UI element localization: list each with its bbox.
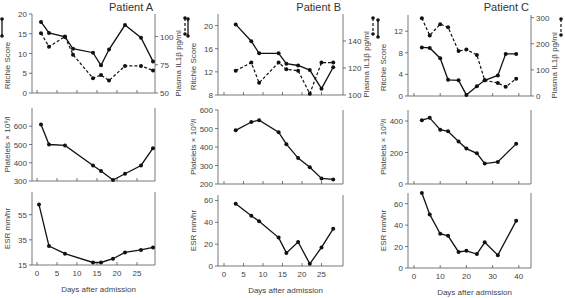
y-tick-label: 400 — [200, 143, 214, 152]
panel-ritchie-il1b: 048120100200300Plasma IL1β pg/mlRitchie … — [376, 14, 563, 101]
series-line — [41, 22, 153, 65]
y-tick-label: 10 — [18, 50, 27, 59]
y-axis-label: ESR mm/hr — [3, 208, 12, 250]
data-point — [296, 69, 300, 73]
data-point — [428, 116, 432, 120]
data-point — [438, 56, 442, 60]
data-point — [331, 65, 335, 69]
data-point — [296, 63, 300, 67]
data-point — [151, 245, 155, 249]
data-point — [331, 227, 335, 231]
data-point — [234, 69, 238, 73]
data-point — [308, 68, 312, 72]
data-point — [99, 169, 103, 173]
data-point — [475, 84, 479, 88]
x-tick-label: 5 — [55, 269, 60, 278]
data-point — [496, 81, 500, 85]
data-point — [428, 33, 432, 37]
data-point — [234, 128, 238, 132]
y-axis-label: ESR mm/hr — [379, 210, 388, 252]
data-point — [39, 31, 43, 35]
data-point — [464, 47, 468, 51]
y-right-tick-label: 50 — [160, 89, 169, 98]
data-point — [496, 160, 500, 164]
x-tick-label: 15 — [93, 269, 102, 278]
data-point — [320, 87, 324, 91]
y-axis-label: Platelets × 10⁹/l — [189, 119, 198, 175]
series-line — [236, 63, 334, 94]
y-tick-label: 400 — [390, 117, 404, 126]
y-tick-label: 4 — [399, 70, 404, 79]
data-point — [284, 62, 288, 66]
y-tick-label: 60 — [394, 200, 403, 209]
data-point — [420, 45, 424, 49]
data-point — [63, 35, 67, 39]
data-point — [308, 165, 312, 169]
y-tick-label: 200 — [200, 180, 214, 189]
x-tick-label: 0 — [412, 272, 417, 281]
y-tick-label: 5 — [23, 69, 28, 78]
data-point — [63, 252, 67, 256]
y-tick-label: 600 — [200, 106, 214, 115]
data-point — [91, 163, 95, 167]
data-point — [91, 260, 95, 264]
data-point — [504, 52, 508, 56]
data-point — [475, 53, 479, 57]
y-tick-label: 15 — [18, 30, 27, 39]
y-right-tick-label: 100 — [348, 91, 362, 100]
data-point — [123, 64, 127, 68]
data-point — [438, 22, 442, 26]
y-tick-label: 20 — [18, 10, 27, 19]
patient-chart-1: Patient B8121620100120140Plasma IL1β pg/… — [186, 1, 375, 295]
y-tick-label: 20 — [204, 240, 213, 249]
data-point — [107, 48, 111, 52]
x-tick-label: 20 — [298, 270, 307, 279]
series-line — [41, 124, 153, 180]
data-point — [234, 22, 238, 26]
data-point — [257, 51, 261, 55]
data-point — [514, 142, 518, 146]
data-point — [446, 78, 450, 82]
y-axis-label: Ritchie Score — [189, 42, 198, 90]
data-point — [47, 143, 51, 147]
y-right-tick-label: 120 — [348, 64, 362, 73]
data-point — [457, 139, 461, 143]
series-line — [39, 205, 153, 263]
y-tick-label: 20 — [204, 22, 213, 31]
y-right-tick-label: 100 — [160, 33, 174, 42]
data-point — [277, 130, 281, 134]
panel-ritchie-il1b: 8121620100120140Plasma IL1β pg/mlRitchie… — [186, 14, 375, 100]
y-axis-label: ESR mm/hr — [189, 210, 198, 252]
data-point — [446, 25, 450, 29]
panel-esr: 153555ESR mm/hr0510152025Days after admi… — [3, 192, 155, 294]
data-point — [504, 85, 508, 89]
data-point — [438, 128, 442, 132]
series-line — [41, 33, 153, 80]
data-point — [496, 253, 500, 257]
data-point — [446, 129, 450, 133]
y-tick-label: 12 — [394, 27, 403, 36]
data-point — [475, 252, 479, 256]
data-point — [428, 46, 432, 50]
y-right-tick-label: 0 — [536, 92, 541, 101]
data-point — [39, 20, 43, 24]
x-axis-label: Days after admission — [248, 286, 323, 295]
y-tick-label: 8 — [399, 49, 404, 58]
data-point — [331, 177, 335, 181]
data-point — [464, 93, 468, 97]
y-right-tick-label: 200 — [536, 40, 550, 49]
panel-ritchie-il1b: 051015205075100Plasma IL1β pg/mlRitchie … — [0, 10, 187, 98]
x-tick-label: 25 — [133, 269, 142, 278]
y-right-tick-label: 75 — [160, 61, 169, 70]
y-tick-label: 500 — [200, 125, 214, 134]
x-tick-label: 15 — [278, 270, 287, 279]
data-point — [139, 64, 143, 68]
data-point — [284, 67, 288, 71]
data-point — [139, 248, 143, 252]
data-point — [277, 61, 281, 65]
data-point — [47, 244, 51, 248]
x-tick-label: 5 — [241, 270, 246, 279]
data-point — [63, 143, 67, 147]
x-tick-label: 10 — [259, 270, 268, 279]
data-point — [47, 31, 51, 35]
